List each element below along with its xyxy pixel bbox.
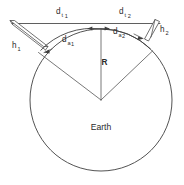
label-dt2-sub: t [125, 12, 127, 18]
label-dt1-base: d [56, 7, 61, 16]
earth-geometry-diagram: d t 1 d t 2 d a 1 d a 2 h 1 h 2 R Earth [0, 0, 184, 185]
label-dt2-sub-index: 2 [128, 13, 131, 19]
label-da1-sub-index: 1 [71, 41, 74, 47]
diagram-canvas: d t 1 d t 2 d a 1 d a 2 h 1 h 2 R Earth [0, 0, 184, 185]
label-h1-sub: 1 [18, 46, 21, 52]
label-da2-base: d [113, 27, 118, 36]
label-radius: R [102, 58, 108, 67]
label-dt1-sub: t [62, 12, 64, 18]
label-earth: Earth [91, 122, 112, 132]
antenna-h1-edge-bottom [46, 47, 49, 51]
label-da2-sub-index: 2 [122, 33, 125, 39]
label-h2-base: h [160, 25, 165, 34]
left-radius-line [39, 53, 102, 101]
label-h2-sub: 2 [166, 30, 169, 36]
right-radius-line [101, 51, 153, 100]
label-dt2-base: d [119, 7, 124, 16]
d-a2-arc [101, 29, 151, 49]
label-dt1-sub-index: 1 [65, 13, 68, 19]
d-a1-arrowhead [44, 50, 50, 54]
label-h1-base: h [12, 41, 17, 50]
antenna-h2-prism [145, 20, 160, 42]
label-da1-base: d [62, 35, 67, 44]
